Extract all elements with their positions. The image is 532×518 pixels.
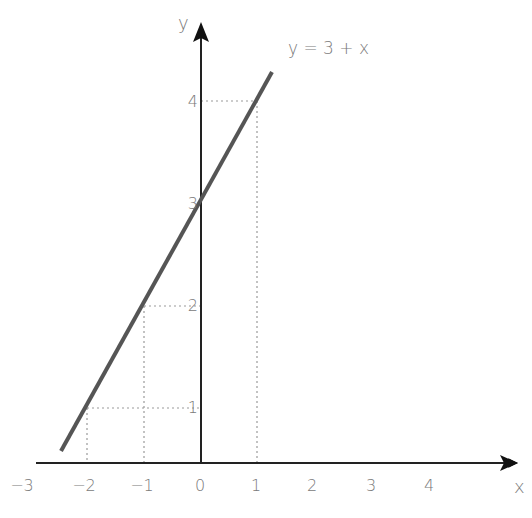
x-tick-label: 2 (307, 478, 317, 494)
y-tick-label: 4 (188, 94, 198, 110)
equation-label: y = 3 + x (288, 40, 369, 57)
chart-canvas (0, 0, 532, 518)
x-tick-label: 3 (366, 478, 376, 494)
y-tick-label: 3 (188, 196, 198, 212)
y-tick-label: 1 (188, 400, 198, 416)
function-line (61, 72, 272, 451)
guide-lines (87, 101, 257, 463)
x-tick-label: 1 (251, 478, 261, 494)
x-tick-label: −1 (130, 478, 154, 494)
x-tick-label: −3 (10, 478, 34, 494)
x-tick-label: −2 (72, 478, 96, 494)
y-axis-label: y (178, 14, 189, 32)
x-axis-label: x (514, 478, 525, 496)
y-tick-label: 2 (188, 298, 198, 314)
x-tick-label: 0 (195, 478, 205, 494)
x-tick-label: 4 (424, 478, 434, 494)
